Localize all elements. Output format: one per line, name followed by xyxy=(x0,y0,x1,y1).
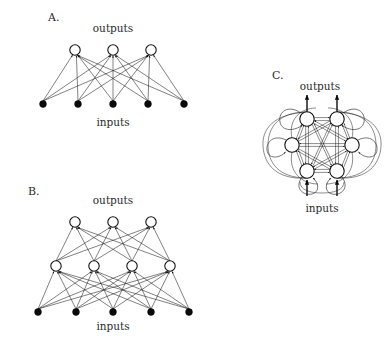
input-node-5 xyxy=(181,101,188,108)
unit-3 xyxy=(345,138,359,152)
output-node-3 xyxy=(146,217,156,227)
input-node-1 xyxy=(35,309,42,316)
input-node-4 xyxy=(145,101,152,108)
unit-1 xyxy=(300,112,314,126)
unit-4 xyxy=(330,164,344,178)
hidden-node-2 xyxy=(89,261,99,271)
input-node-1 xyxy=(40,101,47,108)
network-figure: A. outputs inputs xyxy=(0,0,390,355)
input-node-5 xyxy=(186,309,193,316)
panel-c-letter: C. xyxy=(272,69,284,82)
panel-c-outputs-label: outputs xyxy=(300,80,340,92)
hidden-node-4 xyxy=(165,261,175,271)
output-node-2 xyxy=(108,45,118,55)
output-node-1 xyxy=(70,217,80,227)
output-node-2 xyxy=(108,217,118,227)
unit-2 xyxy=(330,112,344,126)
input-node-2 xyxy=(75,101,82,108)
unit-6 xyxy=(285,138,299,152)
output-node-3 xyxy=(146,45,156,55)
hidden-node-1 xyxy=(51,261,61,271)
panel-b-outputs-label: outputs xyxy=(93,194,133,206)
panel-a-outputs-label: outputs xyxy=(93,22,133,34)
input-node-4 xyxy=(148,309,155,316)
panel-a-inputs-label: inputs xyxy=(96,116,129,128)
panel-c-inputs-label: inputs xyxy=(305,202,338,214)
panel-b-letter: B. xyxy=(28,185,40,198)
input-node-2 xyxy=(73,309,80,316)
input-node-3 xyxy=(110,101,117,108)
output-node-1 xyxy=(70,45,80,55)
panel-a-letter: A. xyxy=(47,11,59,24)
figure-background xyxy=(0,0,390,355)
input-node-3 xyxy=(110,309,117,316)
hidden-node-3 xyxy=(127,261,137,271)
panel-b-inputs-label: inputs xyxy=(96,320,129,332)
unit-5 xyxy=(300,164,314,178)
